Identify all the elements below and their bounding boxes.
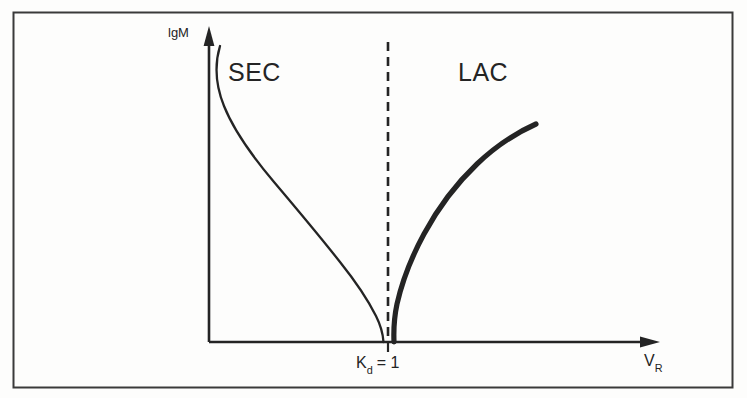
y-axis-arrow-icon xyxy=(204,26,215,46)
x-axis-label-main: V xyxy=(644,352,655,369)
kd-label-main: K xyxy=(356,354,367,371)
figure-border xyxy=(14,13,733,388)
kd-equals-one-label: Kd= 1 xyxy=(356,355,399,374)
y-axis-label: lgM xyxy=(168,26,189,39)
figure-container: lgM SEC LAC Kd= 1 VR xyxy=(0,0,747,398)
lac-region-label: LAC xyxy=(458,60,508,85)
sec-curve xyxy=(217,46,384,342)
sec-region-label: SEC xyxy=(228,60,281,85)
x-axis-label-subscript: R xyxy=(655,362,663,374)
x-axis-arrow-icon xyxy=(640,337,660,348)
kd-label-tail: = 1 xyxy=(377,354,400,371)
x-axis-label: VR xyxy=(644,353,663,372)
kd-label-subscript: d xyxy=(367,364,373,376)
chart-canvas xyxy=(0,0,747,398)
lac-curve xyxy=(394,124,536,342)
